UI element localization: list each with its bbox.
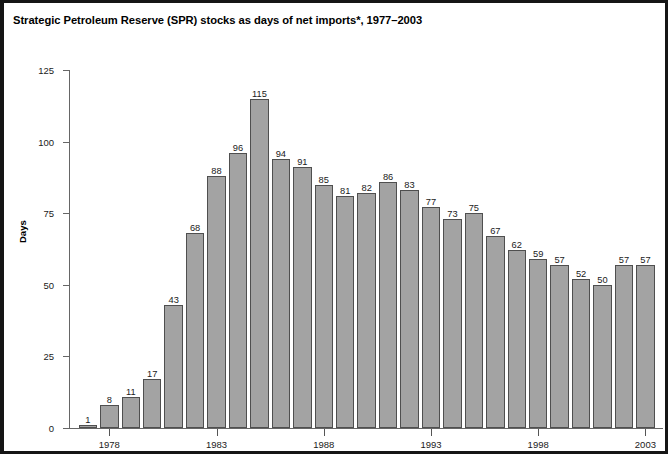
bar-value-label: 43: [168, 295, 178, 305]
bar-1988: 85: [315, 185, 333, 428]
bar-value-label: 1: [85, 415, 90, 425]
bar-value-label: 77: [426, 197, 436, 207]
bar-value-label: 82: [361, 183, 371, 193]
y-tick-25: 25: [63, 356, 69, 357]
bar-value-label: 83: [404, 180, 414, 190]
bar-1978: 8: [100, 405, 118, 428]
bar-value-label: 88: [211, 166, 221, 176]
bar-1986: 94: [272, 159, 290, 428]
bar-value-label: 17: [147, 369, 157, 379]
bar-2001: 50: [593, 285, 611, 428]
bar-1992: 83: [400, 190, 418, 428]
x-tick-1978: [109, 429, 110, 436]
y-axis-line: [69, 70, 70, 428]
y-tick-label: 50: [43, 279, 54, 290]
bar-1993: 77: [422, 207, 440, 428]
bar-1997: 62: [508, 250, 526, 428]
bar-value-label: 52: [576, 269, 586, 279]
x-tick-label-1978: 1978: [99, 439, 120, 450]
bar-value-label: 57: [640, 255, 650, 265]
bar-1982: 68: [186, 233, 204, 428]
y-tick-label: 125: [38, 65, 54, 76]
bar-value-label: 57: [554, 255, 564, 265]
y-tick-125: 125: [63, 70, 69, 71]
bar-1991: 86: [379, 182, 397, 428]
y-tick-label: 0: [49, 423, 54, 434]
bar-value-label: 81: [340, 186, 350, 196]
y-tick-50: 50: [63, 285, 69, 286]
bar-value-label: 86: [383, 172, 393, 182]
y-tick-0: 0: [63, 428, 69, 429]
bar-1995: 75: [465, 213, 483, 428]
page-title: Strategic Petroleum Reserve (SPR) stocks…: [13, 14, 422, 26]
y-tick-label: 25: [43, 351, 54, 362]
x-tick-1983: [217, 429, 218, 436]
bar-1990: 82: [357, 193, 375, 428]
bar-value-label: 85: [319, 175, 329, 185]
bar-2000: 52: [572, 279, 590, 428]
x-axis-line: [69, 428, 663, 429]
plot-area: 0255075100125 18111743688896115949185818…: [69, 67, 663, 428]
bar-1979: 11: [122, 397, 140, 429]
x-tick-1993: [431, 429, 432, 436]
y-tick-75: 75: [63, 213, 69, 214]
bar-value-label: 115: [252, 89, 267, 99]
bar-1981: 43: [164, 305, 182, 428]
bar-value-label: 75: [469, 203, 479, 213]
x-tick-1988: [324, 429, 325, 436]
bar-1994: 73: [443, 219, 461, 428]
bar-1998: 59: [529, 259, 547, 428]
chart-page: Strategic Petroleum Reserve (SPR) stocks…: [0, 0, 668, 454]
bar-value-label: 8: [107, 395, 112, 405]
bar-1985: 115: [250, 99, 268, 428]
y-tick-100: 100: [63, 142, 69, 143]
bar-value-label: 11: [126, 387, 136, 397]
bar-value-label: 59: [533, 249, 543, 259]
x-tick-label-1993: 1993: [420, 439, 441, 450]
bar-value-label: 50: [597, 275, 607, 285]
x-tick-2003: [645, 429, 646, 436]
x-tick-label-1983: 1983: [206, 439, 227, 450]
x-tick-label-1988: 1988: [313, 439, 334, 450]
bar-1999: 57: [550, 265, 568, 428]
bar-value-label: 96: [233, 143, 243, 153]
bar-1996: 67: [486, 236, 504, 428]
bar-1983: 88: [207, 176, 225, 428]
x-tick-1998: [538, 429, 539, 436]
bar-1987: 91: [293, 167, 311, 428]
bar-1989: 81: [336, 196, 354, 428]
bar-2003: 57: [636, 265, 654, 428]
x-tick-label-1998: 1998: [528, 439, 549, 450]
bar-value-label: 68: [190, 223, 200, 233]
bar-1984: 96: [229, 153, 247, 428]
bar-2002: 57: [615, 265, 633, 428]
bar-value-label: 91: [297, 157, 307, 167]
bar-1980: 17: [143, 379, 161, 428]
bar-1977: 1: [79, 425, 97, 428]
x-tick-label-2003: 2003: [635, 439, 656, 450]
bar-value-label: 94: [276, 149, 286, 159]
y-tick-label: 75: [43, 208, 54, 219]
bar-value-label: 57: [619, 255, 629, 265]
bar-value-label: 73: [447, 209, 457, 219]
y-tick-label: 100: [38, 136, 54, 147]
y-axis-title: Days: [17, 220, 28, 243]
bar-value-label: 62: [512, 240, 522, 250]
bar-value-label: 67: [490, 226, 500, 236]
